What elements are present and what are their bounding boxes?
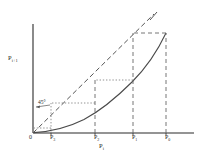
- x-tick-p0-sub: 0: [168, 137, 170, 142]
- x-axis-label-sub: i: [103, 146, 104, 151]
- y-axis-label-sub: i+1: [12, 58, 18, 63]
- cobweb-step-p3: [34, 103, 51, 133]
- x-tick-label-p0: P0: [165, 134, 170, 142]
- cobweb-step-p2: [51, 80, 95, 133]
- axis-group: [33, 24, 194, 133]
- x-tick-label-p3: P3: [50, 134, 55, 142]
- return-map-curve: [34, 33, 166, 133]
- identity-line-45deg: [33, 14, 154, 133]
- x-tick-p1-sub: 1: [135, 137, 137, 142]
- origin-label: 0: [29, 134, 32, 140]
- identity-line-arrow-icon: [150, 12, 157, 20]
- angle-45-label: 45°: [38, 100, 46, 106]
- x-tick-p3-sub: 3: [53, 137, 55, 142]
- x-tick-label-p2: P2: [94, 134, 99, 142]
- x-tick-label-p1: P1: [132, 134, 137, 142]
- x-tick-p2-sub: 2: [97, 137, 99, 142]
- y-axis-label: Pi+1: [8, 55, 18, 64]
- cobweb-step-p0: [133, 33, 166, 133]
- x-axis-label: Pi: [99, 143, 104, 152]
- cobweb-diagram: Pi+1 Pi 45° 0 P3 P2 P1 P0: [0, 0, 200, 157]
- cobweb-step-p1: [95, 33, 133, 133]
